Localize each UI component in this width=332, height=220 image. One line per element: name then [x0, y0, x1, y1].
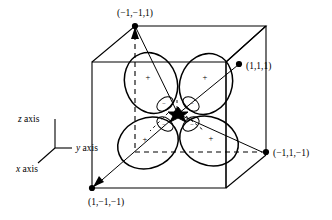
axis-line-x	[38, 148, 55, 163]
cube-wireframe	[92, 26, 266, 188]
inner-lobe-sign-upper-right: −	[190, 100, 194, 107]
lobe-sign-upper-right: +	[203, 72, 208, 82]
vertex-dot-top-right	[236, 61, 242, 67]
vertex-label-top-right: (1,1,1)	[246, 61, 271, 72]
inner-lobe-sign-lower-left: −	[162, 121, 166, 128]
figure-container: (−1,−1,1) (1,1,1) (−1,1,−1) (1,−1,−1) + …	[0, 0, 332, 220]
axis-label-y: y axis	[75, 143, 98, 153]
cube-right-upper-edge	[226, 26, 266, 62]
axis-label-x: x axis	[15, 164, 38, 174]
vertex-dot-right-bottom	[263, 149, 269, 155]
inner-lobe-sign-lower-right: −	[190, 121, 194, 128]
lobe-sign-upper-left: +	[146, 72, 151, 82]
vertex-label-top-back: (−1,−1,1)	[117, 8, 153, 19]
lobe-sign-lower-left: +	[143, 134, 148, 144]
axis-label-z-word: axis	[22, 114, 40, 124]
arrowhead-front-bottom	[93, 176, 104, 187]
axis-label-z: z axis	[17, 114, 40, 124]
vertex-label-right-bottom: (−1,1,−1)	[273, 148, 309, 159]
lobe-sign-lower-right: +	[209, 133, 214, 143]
axis-label-x-word: axis	[20, 164, 38, 174]
axis-triad	[38, 119, 72, 163]
cube-top-face-edges	[92, 26, 266, 62]
nucleus-marker	[168, 107, 188, 122]
inner-lobe-sign-upper-left: −	[162, 100, 166, 107]
vertex-label-front-bottom: (1,−1,−1)	[88, 197, 124, 208]
orbital-cube-figure: (−1,−1,1) (1,1,1) (−1,1,−1) (1,−1,−1) + …	[0, 0, 332, 220]
axis-label-y-word: axis	[80, 143, 98, 153]
